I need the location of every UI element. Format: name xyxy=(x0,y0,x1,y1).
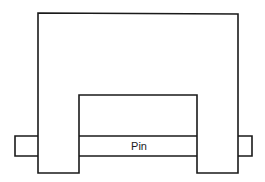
pin-label: Pin xyxy=(131,140,147,152)
pin-right-end xyxy=(238,136,252,156)
pin-bracket-diagram: Pin xyxy=(0,0,265,182)
pin-left-end xyxy=(15,136,38,156)
